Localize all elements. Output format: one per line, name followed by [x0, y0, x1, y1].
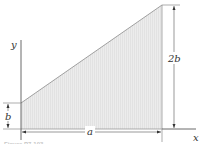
- a-label: a: [87, 126, 93, 137]
- shaded-area: [21, 5, 162, 129]
- arrowhead-icon: [173, 124, 176, 128]
- arrowhead-icon: [173, 6, 176, 10]
- arrowhead-icon: [7, 104, 10, 108]
- arrowhead-icon: [157, 131, 161, 134]
- arrowhead-icon: [22, 131, 26, 134]
- figure-caption: Figure P7-103: [4, 141, 44, 144]
- x-axis-label: x: [193, 132, 199, 143]
- trapezoid-diagram: y x b 2b a Figure P7-103: [0, 0, 206, 144]
- arrowhead-icon: [7, 124, 10, 128]
- y-axis-label: y: [10, 39, 17, 50]
- 2b-label: 2b: [167, 53, 181, 64]
- b-label: b: [5, 111, 11, 122]
